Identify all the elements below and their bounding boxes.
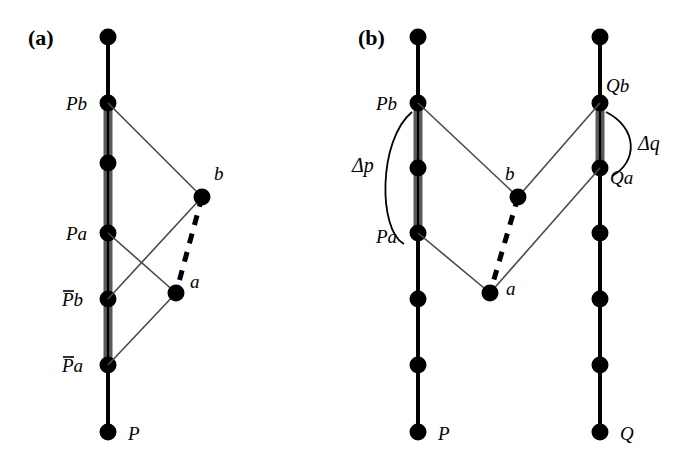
tick-node[interactable] [100,29,117,46]
light-ray [418,233,490,293]
worldline-p-panel-a: PbPaPbPaP [61,29,140,445]
event-node-a[interactable] [168,285,185,302]
event-label-b: b [505,163,515,184]
event-label-b: b [214,163,224,184]
event-node-b[interactable] [194,189,211,206]
node-label-pa: Pa [375,226,397,247]
light-ray [108,103,202,197]
event-node-b[interactable] [510,189,527,206]
event-label-a: a [190,271,200,292]
node-label-pa-bar: Pa [61,355,83,376]
tick-node[interactable] [592,291,609,308]
node-label-qa: Qa [610,167,633,188]
tick-node[interactable] [592,357,609,374]
tick-node[interactable] [592,225,609,242]
tick-node[interactable] [410,29,427,46]
light-ray [418,103,518,197]
tick-node[interactable] [410,291,427,308]
tick-node[interactable] [592,424,609,441]
worldline-q-panel-b: QbQaQ [592,29,635,445]
node-label-pb: Pb [65,93,87,114]
panel-b: (b)PbPaPQbQaQbaΔpΔq [351,25,660,444]
panel-a: (a)PbPaPbPaPba [28,25,224,444]
figure-canvas: (a)PbPaPbPaPba(b)PbPaPQbQaQbaΔpΔq [0,0,697,463]
observer-label-p: P [127,423,140,444]
node-label-pa: Pa [65,223,87,244]
tick-node[interactable] [410,160,427,177]
tick-node[interactable] [410,424,427,441]
node-label-pb: Pb [375,93,397,114]
observer-label-q: Q [620,423,634,444]
node-label-pb-bar: Pb [61,289,83,310]
tick-node[interactable] [100,424,117,441]
arc-label-delta-p: Δp [351,154,374,177]
event-node-a[interactable] [482,285,499,302]
panel-label-a: (a) [28,25,54,50]
panel-label-b: (b) [358,25,385,50]
spacetime-diagram-figure: (a)PbPaPbPaPba(b)PbPaPQbQaQbaΔpΔq [0,0,697,463]
arc-label-delta-q: Δq [637,132,660,155]
tick-node[interactable] [410,357,427,374]
worldline-p-panel-b: PbPaP [375,29,450,445]
light-ray [108,293,176,365]
arc-delta-p [385,112,412,244]
tick-node[interactable] [100,155,117,172]
light-ray [108,197,202,299]
observer-label-p: P [437,423,450,444]
node-label-qb: Qb [606,75,629,96]
tick-node[interactable] [592,29,609,46]
event-label-a: a [506,278,516,299]
